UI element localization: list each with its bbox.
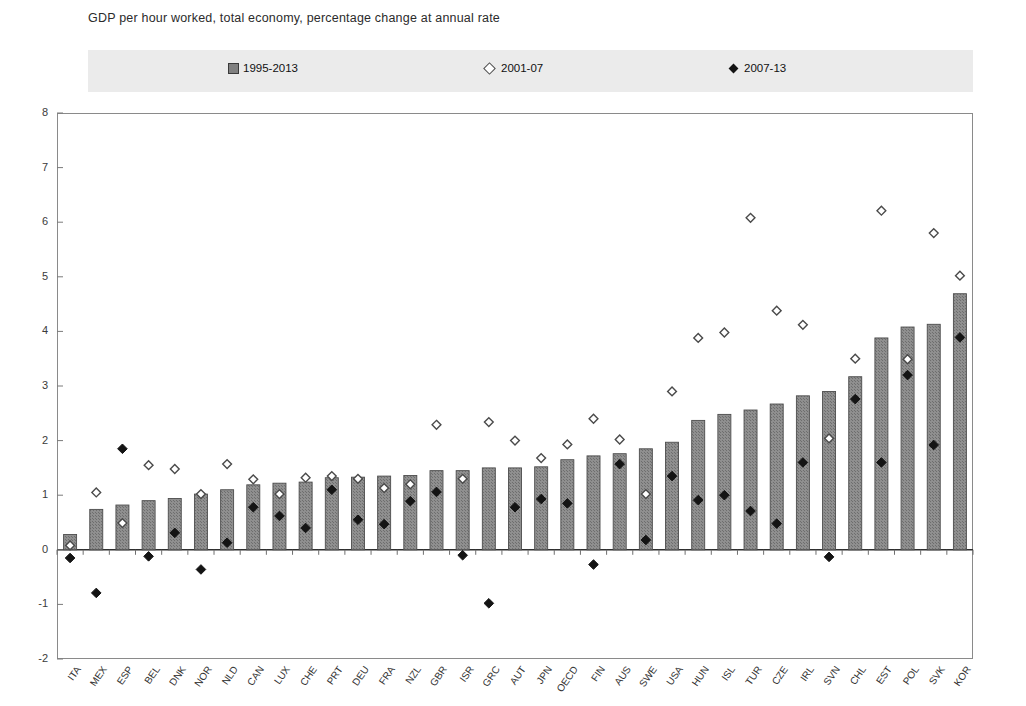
open-diamond-icon (483, 62, 496, 75)
y-tick-label: 5 (22, 270, 48, 282)
filled-diamond-icon (729, 63, 739, 73)
legend-label-2001-07: 2001-07 (501, 62, 543, 74)
y-tick-label: 3 (22, 379, 48, 391)
plot-area (57, 113, 973, 659)
bar-swatch-icon (228, 63, 239, 74)
chart-title: GDP per hour worked, total economy, perc… (88, 11, 500, 25)
y-tick-label: 0 (22, 543, 48, 555)
chart-legend: 1995-2013 2001-07 2007-13 (88, 50, 973, 92)
y-tick-label: 2 (22, 434, 48, 446)
y-tick-label: 7 (22, 161, 48, 173)
legend-item-2001-07: 2001-07 (483, 62, 543, 74)
y-tick-label: 6 (22, 215, 48, 227)
chart-container: GDP per hour worked, total economy, perc… (0, 0, 1026, 706)
y-tick-label: 4 (22, 324, 48, 336)
legend-item-1995-2013: 1995-2013 (228, 62, 298, 74)
y-tick-label: 8 (22, 106, 48, 118)
y-tick-label: -2 (22, 652, 48, 664)
y-tick-label: 1 (22, 488, 48, 500)
legend-label-1995-2013: 1995-2013 (243, 62, 298, 74)
legend-item-2007-13: 2007-13 (728, 62, 786, 74)
legend-label-2007-13: 2007-13 (744, 62, 786, 74)
y-tick-label: -1 (22, 597, 48, 609)
